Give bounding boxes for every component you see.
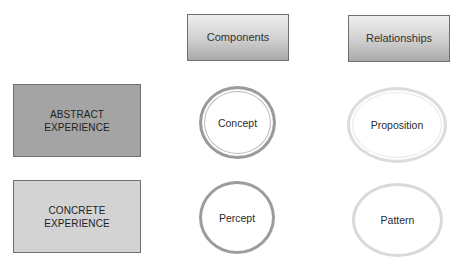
column-header-relationships-label: Relationships <box>366 32 432 45</box>
row-header-abstract-line2: EXPERIENCE <box>44 121 109 134</box>
row-header-concrete-experience: CONCRETE EXPERIENCE <box>13 180 141 253</box>
row-header-abstract-experience: ABSTRACT EXPERIENCE <box>13 84 141 157</box>
node-proposition: Proposition <box>347 87 447 163</box>
node-pattern-label: Pattern <box>381 214 415 226</box>
row-header-abstract-line1: ABSTRACT <box>44 108 109 121</box>
column-header-components-label: Components <box>207 31 269 44</box>
node-percept: Percept <box>199 181 275 254</box>
node-concept-label: Concept <box>218 117 257 129</box>
row-header-concrete-line1: CONCRETE <box>44 204 109 217</box>
column-header-components: Components <box>187 14 289 61</box>
column-header-relationships: Relationships <box>348 15 450 62</box>
node-concept: Concept <box>199 86 276 159</box>
node-proposition-label: Proposition <box>371 119 424 131</box>
node-pattern: Pattern <box>352 183 443 257</box>
row-header-concrete-line2: EXPERIENCE <box>44 217 109 230</box>
node-percept-label: Percept <box>219 212 255 224</box>
